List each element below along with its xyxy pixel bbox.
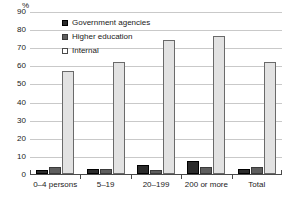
x-axis-category-label: 5–19 [80, 180, 130, 189]
x-axis-category-label: 0–4 persons [30, 180, 80, 189]
x-axis-category-label: 200 or more [181, 180, 231, 189]
bar [238, 169, 250, 174]
y-axis-tick-label: 20 [0, 135, 26, 143]
bar [187, 161, 199, 174]
legend-label-internal: Internal [72, 45, 99, 56]
bar [62, 71, 74, 174]
legend-swatch-icon-internal [62, 48, 68, 54]
y-axis-tick-label: 0 [0, 171, 26, 179]
bar [137, 165, 149, 174]
bar [49, 167, 61, 174]
bar [87, 169, 99, 174]
bar [163, 40, 175, 174]
y-axis-tick-label: 50 [0, 80, 26, 88]
y-axis-tick-label: 60 [0, 62, 26, 70]
x-axis-line [30, 174, 282, 175]
bar [150, 170, 162, 174]
legend-label-higher-education: Higher education [72, 31, 132, 42]
legend-label-government-agencies: Government agencies [72, 17, 150, 28]
bar [200, 167, 212, 174]
legend-swatch-icon-higher-education [62, 34, 68, 40]
legend-swatch-icon-government-agencies [62, 20, 68, 26]
bar-group [187, 11, 225, 174]
y-axis-tick-label: 10 [0, 153, 26, 161]
bar [100, 169, 112, 174]
bar [251, 167, 263, 174]
bar [264, 62, 276, 174]
y-axis-tick-label: 70 [0, 44, 26, 52]
legend-item-internal: Internal [62, 45, 150, 56]
y-axis-tick-label: 90 [0, 8, 26, 16]
x-axis-right-cap [281, 170, 282, 175]
x-axis-tick [181, 175, 182, 179]
x-axis-left-cap [30, 170, 31, 175]
x-axis-category-label: Total [232, 180, 282, 189]
x-axis-tick [131, 175, 132, 179]
x-axis-tick [80, 175, 81, 179]
x-axis-category-label: 20–199 [131, 180, 181, 189]
bar-group [238, 11, 276, 174]
chart-legend: Government agencies Higher education Int… [62, 17, 150, 59]
bar [36, 170, 48, 174]
y-axis-tick-label: 30 [0, 117, 26, 125]
legend-item-government-agencies: Government agencies [62, 17, 150, 28]
bar [113, 62, 125, 174]
legend-item-higher-education: Higher education [62, 31, 150, 42]
y-axis-tick-label: 40 [0, 99, 26, 107]
x-axis-tick [232, 175, 233, 179]
bar-chart: % 0102030405060708090 Government agencie… [0, 0, 290, 209]
y-axis-tick-label: 80 [0, 26, 26, 34]
bar [213, 36, 225, 174]
